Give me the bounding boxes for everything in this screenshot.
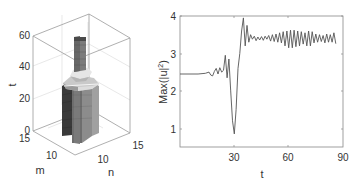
x-tick-90: 90 — [337, 152, 349, 163]
z-tick-60: 60 — [19, 30, 31, 41]
surface-3d-plot: 60 40 20 0 t 15 10 m 10 15 n — [6, 14, 144, 178]
x-axis-label: t — [260, 168, 263, 180]
y-tick-4: 4 — [170, 11, 176, 22]
z-axis-label: t — [6, 83, 18, 86]
y-tick-1: 1 — [170, 124, 176, 135]
m-tick-10: 10 — [46, 150, 58, 161]
n-axis: 10 15 n — [97, 140, 144, 178]
z-tick-40: 40 — [19, 61, 31, 72]
n-tick-10: 10 — [97, 154, 109, 165]
n-axis-label: n — [108, 166, 114, 178]
x-tick-60: 60 — [282, 152, 294, 163]
n-tick-15: 15 — [132, 140, 144, 151]
figure-canvas: 60 40 20 0 t 15 10 m 10 15 n — [0, 0, 361, 184]
z-axis: 60 40 20 0 t — [6, 30, 30, 136]
line-plot: 4 3 2 1 30 60 90 t Max(|u|2) — [157, 11, 349, 180]
m-axis: 15 10 m — [19, 133, 58, 176]
m-axis-label: m — [35, 164, 44, 176]
y-axis-label: Max(|u|2) — [157, 60, 169, 104]
column-upper — [74, 36, 86, 72]
m-tick-15: 15 — [19, 133, 31, 144]
y-tick-3: 3 — [170, 49, 176, 60]
y-tick-2: 2 — [170, 86, 176, 97]
x-tick-30: 30 — [228, 152, 240, 163]
z-tick-20: 20 — [19, 93, 31, 104]
